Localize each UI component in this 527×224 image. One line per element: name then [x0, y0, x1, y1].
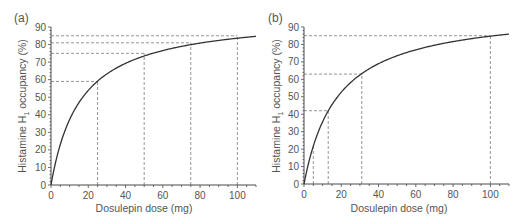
y-tick-label: 40 — [35, 109, 47, 120]
x-tick-label: 0 — [301, 189, 307, 200]
x-tick-label: 20 — [83, 190, 95, 201]
y-tick-label: 0 — [293, 179, 299, 190]
x-tick-label: 40 — [120, 190, 132, 201]
y-tick-label: 10 — [288, 161, 300, 172]
x-tick-label: 100 — [229, 190, 246, 201]
y-tick-label: 90 — [35, 22, 47, 33]
chart-panel-a: (a) 0204060801000102030405060708090 Dosu… — [0, 0, 262, 224]
y-tick-label: 60 — [288, 74, 300, 85]
axes: 0204060801000102030405060708090 — [35, 22, 256, 202]
y-tick-label: 80 — [288, 39, 300, 50]
y-tick-label: 50 — [288, 91, 300, 102]
reference-lines — [51, 36, 237, 185]
y-tick-label: 50 — [35, 92, 47, 103]
chart-b-svg: (b) 0204060801000102030405060708090 Dosu… — [262, 0, 527, 224]
x-tick-label: 80 — [448, 189, 460, 200]
y-tick-label: 70 — [35, 57, 47, 68]
x-axis-label: Dosulepin dose (mg) — [351, 202, 448, 214]
y-axis-label: Histamine H1 occupancy (%) — [16, 39, 30, 172]
y-tick-label: 10 — [35, 162, 47, 173]
y-axis-label: Histamine H1 occupancy (%) — [270, 39, 284, 172]
y-tick-label: 70 — [288, 56, 300, 67]
x-tick-label: 80 — [195, 190, 207, 201]
y-tick-label: 40 — [288, 109, 300, 120]
x-tick-label: 100 — [482, 189, 499, 200]
y-tick-label: 60 — [35, 74, 47, 85]
y-tick-label: 80 — [35, 39, 47, 50]
occupancy-curve — [304, 34, 509, 184]
chart-panel-b: (b) 0204060801000102030405060708090 Dosu… — [262, 0, 527, 224]
x-tick-label: 60 — [157, 190, 169, 201]
reference-lines — [304, 36, 490, 184]
x-tick-label: 20 — [336, 189, 348, 200]
y-tick-label: 20 — [35, 144, 47, 155]
y-tick-label: 90 — [288, 22, 300, 33]
y-tick-label: 0 — [40, 180, 46, 191]
y-tick-label: 30 — [35, 127, 47, 138]
panel-label: (a) — [14, 11, 29, 25]
x-axis-label: Dosulepin dose (mg) — [96, 202, 193, 214]
chart-a-svg: (a) 0204060801000102030405060708090 Dosu… — [0, 0, 262, 224]
occupancy-curve — [51, 36, 256, 185]
y-tick-label: 30 — [288, 126, 300, 137]
x-tick-label: 60 — [410, 189, 422, 200]
y-tick-label: 20 — [288, 144, 300, 155]
x-tick-label: 40 — [373, 189, 385, 200]
panel-label: (b) — [268, 11, 283, 25]
x-tick-label: 0 — [48, 190, 54, 201]
